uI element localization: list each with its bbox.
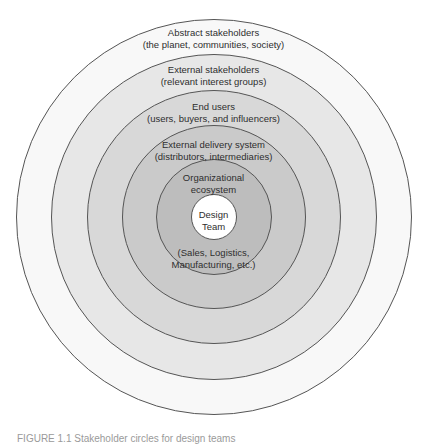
design-team-subtitle: Team — [0, 221, 427, 233]
end-users-subtitle: (users, buyers, and influencers) — [0, 113, 427, 125]
external-stakeholders-subtitle: (relevant interest groups) — [0, 76, 427, 88]
organizational-ecosystem-title: Organizational — [0, 172, 427, 184]
design-team-title: Design — [0, 209, 427, 221]
external-stakeholders-title: External stakeholders — [0, 64, 427, 76]
figure-caption: FIGURE 1.1 Stakeholder circles for desig… — [17, 433, 235, 445]
abstract-stakeholders-title: Abstract stakeholders — [0, 27, 427, 39]
external-delivery-system-subtitle: (distributors, intermediaries) — [0, 151, 427, 163]
organizational-ecosystem-note-line2: Manufacturing, etc.) — [0, 259, 427, 271]
end-users-title: End users — [0, 101, 427, 113]
organizational-ecosystem-note-line1: (Sales, Logistics, — [0, 247, 427, 259]
abstract-stakeholders-subtitle: (the planet, communities, society) — [0, 39, 427, 51]
organizational-ecosystem-subtitle: ecosystem — [0, 184, 427, 196]
external-delivery-system-title: External delivery system — [0, 139, 427, 151]
